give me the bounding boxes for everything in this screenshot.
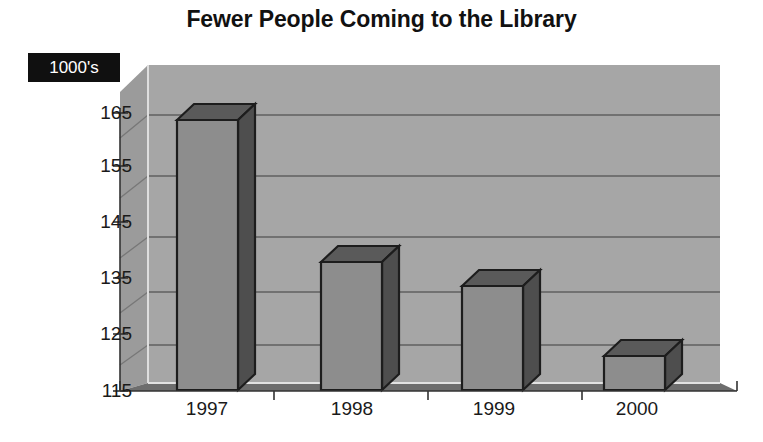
bar-1997-front <box>177 120 238 390</box>
bar-2000[interactable] <box>604 340 682 390</box>
y-tick-label-125: 125 <box>36 323 132 345</box>
bar-2000-front <box>604 356 665 390</box>
y-tick-label-135: 135 <box>36 267 132 289</box>
bar-1997-side <box>238 104 255 390</box>
x-tick-label-1998: 1998 <box>331 398 373 420</box>
x-tick-label-2000: 2000 <box>616 398 658 420</box>
y-tick-label-145: 145 <box>36 211 132 233</box>
bar-1998-side <box>382 246 399 390</box>
bar-1999[interactable] <box>462 270 540 390</box>
y-tick-label-115: 115 <box>36 380 132 402</box>
y-tick-labels: 165 155 145 135 125 115 <box>0 0 132 442</box>
y-tick-label-165: 165 <box>36 102 132 124</box>
chart-figure: Fewer People Coming to the Library 1000'… <box>0 0 763 442</box>
bar-1997[interactable] <box>177 104 255 390</box>
bar-1999-front <box>462 286 523 390</box>
bar-1998[interactable] <box>321 246 399 390</box>
x-tick-label-1997: 1997 <box>186 398 228 420</box>
bar-1999-side <box>523 270 540 390</box>
y-tick-label-155: 155 <box>36 155 132 177</box>
bar-1998-front <box>321 262 382 390</box>
x-tick-label-1999: 1999 <box>473 398 515 420</box>
